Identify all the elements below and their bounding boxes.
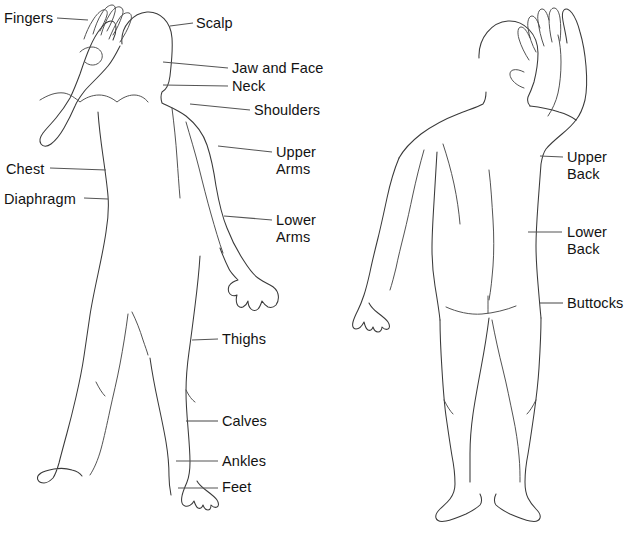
front-figure-finger-2 bbox=[93, 5, 115, 34]
label-upper-back-line1: Upper bbox=[567, 149, 607, 167]
label-ankles: Ankles bbox=[222, 453, 266, 470]
front-figure-thumb bbox=[80, 47, 102, 65]
back-figure-raised-arm-outer bbox=[562, 9, 586, 120]
back-figure-spine bbox=[489, 170, 494, 300]
label-lower-arms-line2: Arms bbox=[276, 229, 310, 247]
label-scalp: Scalp bbox=[196, 15, 233, 32]
leader-neck bbox=[163, 85, 228, 86]
label-lower-arms-line1: Lower bbox=[276, 212, 316, 230]
back-figure-left-leg-outer bbox=[436, 320, 482, 521]
leader-upper-arms bbox=[218, 146, 272, 152]
front-figure-sternum bbox=[172, 108, 180, 198]
label-upper-back-line2: Back bbox=[567, 166, 600, 184]
label-buttocks: Buttocks bbox=[567, 295, 623, 312]
leader-chest bbox=[50, 168, 106, 170]
leader-thighs bbox=[192, 339, 218, 340]
label-fingers: Fingers bbox=[4, 10, 53, 27]
back-figure-group bbox=[353, 8, 587, 521]
front-figure-left-torso bbox=[38, 112, 109, 483]
front-figure-right-leg-outer bbox=[182, 256, 219, 510]
back-figure-buttock-crease bbox=[446, 306, 516, 314]
leader-diaphragm bbox=[84, 198, 108, 199]
label-neck: Neck bbox=[232, 78, 265, 95]
front-figure-hanging-arm-inner bbox=[186, 122, 223, 253]
label-lower-back-line2: Back bbox=[567, 241, 600, 259]
label-diaphragm: Diaphragm bbox=[4, 191, 76, 208]
front-figure-outline bbox=[122, 12, 279, 311]
leader-jaw-and-face bbox=[163, 62, 228, 68]
leader-scalp bbox=[170, 23, 193, 26]
anatomy-figures-svg bbox=[0, 0, 629, 537]
label-shoulders: Shoulders bbox=[254, 102, 320, 119]
front-figure-right-knee bbox=[186, 390, 195, 402]
front-figure-left-leg-inner bbox=[90, 314, 128, 475]
front-figure-clavicle bbox=[40, 93, 148, 102]
label-upper-arms-line2: Arms bbox=[276, 161, 310, 179]
front-figure-right-leg-inner bbox=[150, 358, 171, 495]
back-figure-raised-arm-inner bbox=[548, 35, 561, 116]
back-figure-left-torso bbox=[432, 152, 440, 320]
leader-upper-back bbox=[540, 156, 563, 157]
anatomy-diagram: Fingers Scalp Jaw and Face Neck Shoulder… bbox=[0, 0, 629, 537]
front-figure-left-knee bbox=[96, 382, 105, 396]
front-figure-finger-4 bbox=[109, 13, 131, 42]
leader-lower-arms bbox=[224, 216, 272, 220]
label-thighs: Thighs bbox=[222, 331, 266, 348]
leader-fingers bbox=[57, 18, 88, 20]
back-figure-finger-1 bbox=[549, 8, 561, 42]
label-upper-arms-line1: Upper bbox=[276, 144, 316, 162]
back-figure-hanging-arm-inner bbox=[390, 150, 424, 290]
back-figure-right-leg-inner bbox=[492, 320, 520, 482]
label-jaw-and-face: Jaw and Face bbox=[232, 60, 323, 77]
back-figure-neck-left-shoulder bbox=[399, 92, 486, 158]
label-calves: Calves bbox=[222, 413, 267, 430]
front-figure-crotch bbox=[132, 312, 148, 355]
back-figure-hanging-arm-outer bbox=[353, 158, 399, 332]
label-lower-back-line1: Lower bbox=[567, 224, 607, 242]
back-figure-shoulder-blade-left bbox=[443, 144, 460, 224]
leader-shoulders bbox=[190, 104, 250, 110]
label-feet: Feet bbox=[222, 479, 251, 496]
back-figure-thumb bbox=[510, 70, 524, 88]
front-figure-raised-arm bbox=[40, 21, 120, 146]
back-figure-left-leg-inner bbox=[470, 318, 489, 482]
back-figure-right-leg-outer bbox=[495, 318, 542, 521]
label-chest: Chest bbox=[6, 161, 44, 178]
